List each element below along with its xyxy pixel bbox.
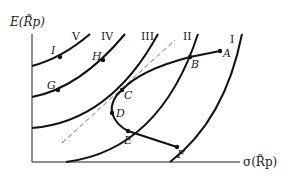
curve-label-ii: II bbox=[183, 30, 192, 43]
point-b-label: B bbox=[190, 58, 199, 71]
point-g-label: G bbox=[47, 79, 56, 92]
point-e-label: E bbox=[123, 134, 132, 147]
x-axis-label: σ(R̃p) bbox=[243, 154, 277, 169]
point-d-label: D bbox=[115, 107, 125, 120]
point-a-marker bbox=[218, 49, 222, 53]
indifference-curve-v bbox=[32, 34, 90, 66]
curve-label-v: V bbox=[71, 30, 81, 43]
curve-label-iii: III bbox=[141, 30, 154, 43]
point-i-marker bbox=[58, 55, 62, 59]
point-h-label: H bbox=[91, 50, 102, 63]
diagram-canvas: E(R̃p) σ(R̃p) V IV III II I A B bbox=[0, 0, 289, 178]
point-e-marker bbox=[126, 129, 130, 133]
point-f-label: F bbox=[176, 148, 185, 161]
point-g-marker bbox=[56, 88, 60, 92]
point-i-label: I bbox=[50, 44, 56, 57]
curve-label-iv: IV bbox=[101, 30, 114, 43]
point-d-marker bbox=[110, 111, 114, 115]
y-axis-label: E(R̃p) bbox=[9, 14, 45, 29]
point-a-label: A bbox=[222, 47, 231, 60]
dashed-line bbox=[62, 40, 175, 143]
curve-label-i: I bbox=[230, 33, 234, 46]
point-c-label: C bbox=[124, 89, 133, 102]
diagram-svg: E(R̃p) σ(R̃p) V IV III II I A B bbox=[0, 0, 289, 178]
